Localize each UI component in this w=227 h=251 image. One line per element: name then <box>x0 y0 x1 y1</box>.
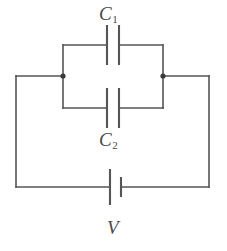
junction-nodes <box>60 73 165 78</box>
left-junction-dot <box>60 73 65 78</box>
capacitor-c1-symbol <box>107 25 119 65</box>
capacitor-c1-label: C1 <box>99 4 117 23</box>
voltage-source-label-symbol: V <box>107 217 119 238</box>
voltage-source-symbol <box>110 169 121 205</box>
capacitor-c2-label: C2 <box>99 130 117 149</box>
capacitor-c2-symbol <box>107 88 119 128</box>
capacitor-c2-label-subscript: 2 <box>112 139 118 151</box>
right-junction-dot <box>160 73 165 78</box>
circuit-schematic-canvas <box>0 0 227 251</box>
capacitor-c2-label-symbol: C <box>99 129 112 150</box>
circuit-diagram: C1 C2 V <box>0 0 227 251</box>
bottom-parallel-branch <box>63 76 163 108</box>
top-parallel-branch <box>63 45 163 76</box>
capacitor-c1-label-symbol: C <box>99 3 112 24</box>
voltage-source-label: V <box>107 218 119 237</box>
capacitor-c1-label-subscript: 1 <box>112 13 118 25</box>
